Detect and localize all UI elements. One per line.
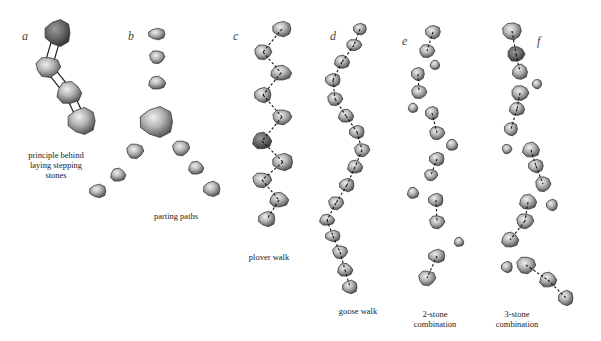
stepping-stone — [36, 58, 61, 78]
panel-f-stones — [501, 23, 573, 306]
stepping-stone — [347, 40, 362, 51]
caption-line: 2-stone — [402, 309, 468, 319]
stepping-stone — [326, 230, 340, 242]
caption-2-stone-combination: 2-stone combination — [402, 309, 468, 329]
caption-line: 3-stone — [484, 309, 550, 319]
stepping-stone — [523, 142, 540, 157]
stepping-stone — [173, 141, 190, 156]
stepping-stone — [520, 194, 537, 209]
panel-c-stones — [253, 21, 293, 226]
stepping-stone — [348, 160, 363, 173]
stepping-stone — [273, 110, 292, 125]
caption-line: combination — [484, 319, 550, 329]
stepping-stone — [446, 139, 457, 150]
stepping-stone — [45, 20, 70, 47]
stepping-stone — [68, 107, 95, 134]
caption-line: stones — [20, 170, 92, 180]
stepping-stone — [430, 127, 445, 140]
stepping-stone — [546, 199, 557, 211]
caption-3-stone-combination: 3-stone combination — [484, 309, 550, 329]
stepping-stone — [407, 187, 418, 198]
caption-line: goose walk — [325, 306, 391, 316]
stepping-stone — [536, 177, 551, 192]
caption-parting-paths: parting paths — [140, 211, 212, 221]
stepping-stone — [503, 145, 513, 154]
stepping-stone — [140, 107, 172, 138]
stepping-stone — [540, 272, 557, 287]
stepping-stone — [57, 81, 82, 103]
stepping-stone — [559, 290, 573, 305]
panel-letter-d: d — [330, 29, 336, 44]
caption-line: principle behind — [20, 150, 92, 160]
stepping-stone — [504, 123, 517, 136]
stepping-stone — [90, 184, 106, 198]
stepping-stone — [412, 86, 427, 99]
stepping-stone — [430, 216, 445, 229]
stepping-stone — [343, 280, 357, 294]
panel-letter-b: b — [128, 29, 134, 44]
caption-goose-walk: goose walk — [325, 306, 391, 316]
stepping-stone — [189, 161, 204, 174]
stepping-stone — [149, 76, 166, 89]
caption-principle: principle behind laying stepping stones — [20, 150, 92, 180]
panel-letter-a: a — [22, 29, 28, 44]
caption-line: combination — [402, 319, 468, 329]
panel-letter-f: f — [537, 34, 540, 49]
panel-letter-c: c — [233, 29, 238, 44]
stepping-stone — [270, 192, 289, 207]
stepping-stone — [259, 211, 275, 226]
stepping-stone — [150, 51, 165, 64]
panel-b-stones — [90, 28, 220, 197]
stepping-stone — [111, 168, 126, 181]
panel-a-stones — [36, 20, 95, 135]
stepping-stone — [253, 132, 272, 149]
stepping-stone — [532, 79, 541, 89]
panel-letter-e: e — [402, 34, 407, 49]
stepping-stone — [425, 170, 438, 181]
caption-line: plover walk — [236, 252, 302, 262]
stepping-stone — [430, 60, 439, 69]
panel-d-stones — [320, 23, 370, 293]
caption-line: laying stepping — [20, 160, 92, 170]
stepping-stone — [501, 261, 512, 273]
caption-plover-walk: plover walk — [236, 252, 302, 262]
stepping-stone — [454, 237, 464, 246]
stepping-stone — [255, 87, 271, 102]
stepping-stone — [204, 181, 220, 196]
caption-line: parting paths — [140, 211, 212, 221]
stepping-stone — [419, 271, 436, 286]
stepping-stone — [408, 103, 418, 112]
stepping-stone — [149, 28, 165, 40]
stones-layer — [36, 20, 573, 306]
panel-e-stones — [407, 26, 464, 286]
stepping-stone — [127, 144, 144, 159]
